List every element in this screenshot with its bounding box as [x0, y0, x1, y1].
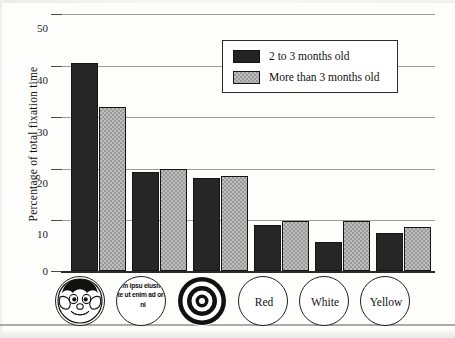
newsprint-icon: rem ipsu eiusmod te ut enim ad oris ni: [116, 276, 166, 326]
bar-face-series0: [71, 63, 98, 271]
bar-yellow-series1: [404, 227, 431, 271]
chart-figure: Percentage of total fixation time 50 40 …: [0, 0, 455, 338]
y-axis-tick-labels: 50 40 30 20 10 0: [14, 14, 48, 272]
y-tick-10: [51, 220, 62, 221]
legend-swatch-light: [233, 71, 260, 84]
y-tick-20: [51, 169, 62, 170]
bar-white-series1: [343, 221, 370, 271]
bar-bullseye-series0: [193, 178, 220, 271]
bar-red-series0: [254, 225, 281, 271]
bar-face-series1: [99, 107, 126, 271]
red-circle-icon: Red: [238, 276, 288, 326]
legend-item-0: 2 to 3 months old: [233, 47, 350, 65]
page-edge-top: [0, 0, 455, 3]
bullseye-icon: [177, 276, 227, 326]
y-tick-label-30: 30: [14, 127, 48, 138]
face-icon: [55, 276, 105, 326]
gridline-50: [62, 14, 435, 15]
legend-swatch-dark: [233, 50, 260, 63]
y-tick-label-20: 20: [14, 178, 48, 189]
page-edge-bottom-shade: [0, 331, 455, 338]
face-icon-svg: [56, 277, 104, 325]
y-tick-50: [51, 14, 62, 15]
category-newsprint: rem ipsu eiusmod te ut enim ad oris ni: [116, 276, 166, 326]
y-tick-30: [51, 117, 62, 118]
x-axis-line: [61, 271, 435, 273]
y-tick-40: [51, 66, 62, 67]
category-white: White: [299, 276, 349, 326]
category-label-yellow: Yellow: [361, 277, 410, 326]
category-red: Red: [238, 276, 288, 326]
legend-label-0: 2 to 3 months old: [269, 50, 350, 62]
y-tick-label-10: 10: [14, 229, 48, 240]
x-axis-category-icons: rem ipsu eiusmod te ut enim ad oris ni R…: [0, 276, 455, 328]
category-face: [55, 276, 105, 326]
chart-legend: 2 to 3 months old More than 3 months old: [222, 40, 398, 93]
y-tick-label-50: 50: [14, 23, 48, 34]
category-label-white: White: [300, 277, 349, 326]
category-yellow: Yellow: [360, 276, 410, 326]
bullseye-icon-svg: [177, 276, 227, 326]
category-bullseye: [177, 276, 227, 326]
category-label-red: Red: [239, 277, 288, 326]
legend-label-1: More than 3 months old: [269, 71, 380, 83]
bar-newsprint-series1: [160, 169, 187, 271]
white-circle-icon: White: [299, 276, 349, 326]
bar-yellow-series0: [376, 233, 403, 271]
bar-red-series1: [282, 221, 309, 271]
legend-item-1: More than 3 months old: [233, 68, 380, 86]
yellow-circle-icon: Yellow: [360, 276, 410, 326]
bar-bullseye-series1: [221, 176, 248, 271]
bar-white-series0: [315, 242, 342, 271]
y-tick-label-40: 40: [14, 75, 48, 86]
bar-newsprint-series0: [132, 172, 159, 271]
newsprint-text: rem ipsu eiusmod te ut enim ad oris ni: [116, 281, 166, 309]
